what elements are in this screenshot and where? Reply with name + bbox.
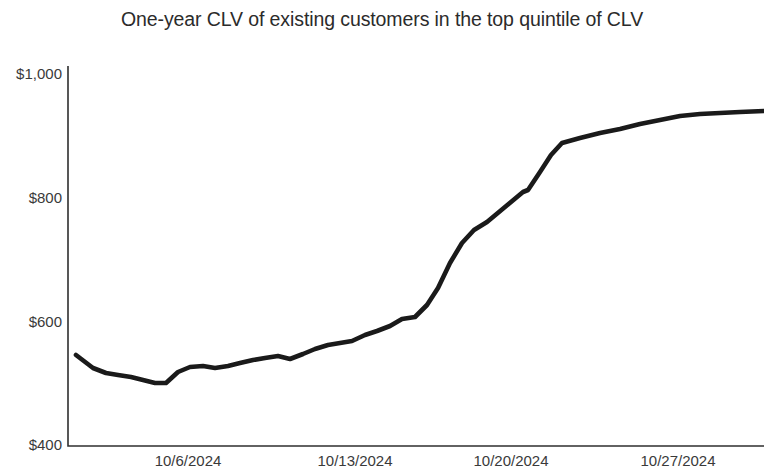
- y-tick-label: $1,000: [16, 65, 62, 82]
- chart-canvas: [0, 0, 764, 475]
- x-tick-label: 10/20/2024: [473, 452, 548, 469]
- plot-area: $1,000$800$600$400 10/6/202410/13/202410…: [0, 0, 764, 475]
- clv-series-line: [76, 111, 764, 383]
- x-tick-label: 10/6/2024: [155, 452, 222, 469]
- y-tick-label: $800: [29, 189, 62, 206]
- y-tick-label: $600: [29, 313, 62, 330]
- axis-lines: [68, 66, 764, 446]
- chart-card: One-year CLV of existing customers in th…: [0, 0, 764, 475]
- y-tick-label: $400: [29, 436, 62, 453]
- x-tick-label: 10/27/2024: [640, 452, 715, 469]
- x-tick-label: 10/13/2024: [317, 452, 392, 469]
